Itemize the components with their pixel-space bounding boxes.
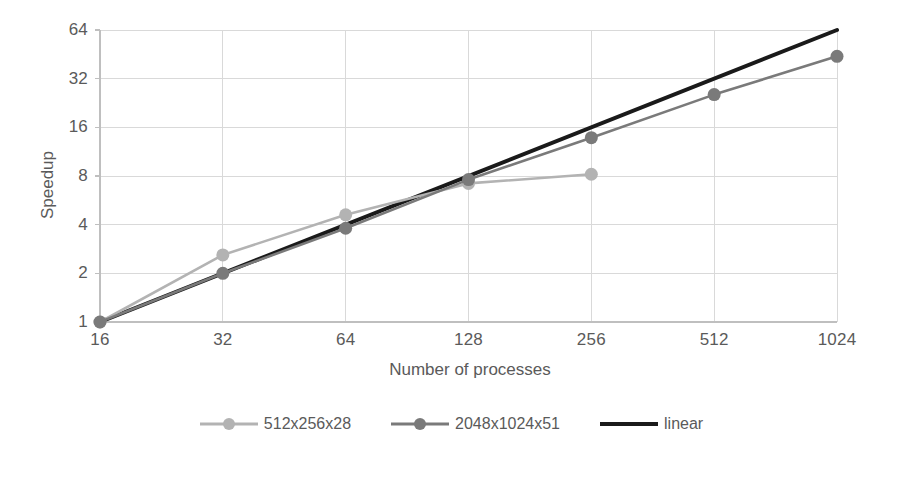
x-axis-tick-label: 1024 [818, 330, 857, 350]
legend-item[interactable]: 512x256x28 [200, 415, 351, 433]
y-axis-tick-label: 32 [20, 69, 88, 89]
y-axis-tick-label: 1 [20, 312, 88, 332]
data-point-marker [216, 267, 229, 280]
x-axis-tick-label: 128 [454, 330, 483, 350]
x-axis-tick-label: 64 [336, 330, 355, 350]
legend-marker-icon [223, 418, 235, 430]
data-point-marker [339, 208, 352, 221]
data-point-marker [831, 50, 844, 63]
chart-legend: 512x256x282048x1024x51linear [0, 415, 903, 433]
y-axis-title: Speedup [38, 125, 58, 245]
x-axis-tick-label: 512 [700, 330, 729, 350]
y-axis-tick-label: 2 [20, 263, 88, 283]
legend-swatch [391, 416, 449, 432]
legend-swatch [600, 416, 658, 432]
y-axis-tick-label: 64 [20, 20, 88, 40]
speedup-chart: 1248163264 1632641282565121024 Speedup N… [0, 0, 903, 479]
x-axis-tick-label: 256 [577, 330, 606, 350]
data-point-marker [708, 88, 721, 101]
legend-line [600, 422, 658, 426]
legend-label: 512x256x28 [264, 415, 351, 433]
data-point-marker [94, 316, 107, 329]
x-axis-tick-label: 32 [213, 330, 232, 350]
plot-area [0, 0, 903, 479]
data-point-marker [216, 248, 229, 261]
data-point-marker [585, 168, 598, 181]
legend-item[interactable]: 2048x1024x51 [391, 415, 560, 433]
data-point-marker [585, 131, 598, 144]
legend-label: 2048x1024x51 [455, 415, 560, 433]
data-point-marker [462, 173, 475, 186]
legend-item[interactable]: linear [600, 415, 703, 433]
x-axis-title: Number of processes [100, 360, 840, 380]
data-point-marker [339, 222, 352, 235]
x-axis-tick-label: 16 [90, 330, 109, 350]
legend-label: linear [664, 415, 703, 433]
legend-marker-icon [414, 418, 426, 430]
legend-swatch [200, 416, 258, 432]
